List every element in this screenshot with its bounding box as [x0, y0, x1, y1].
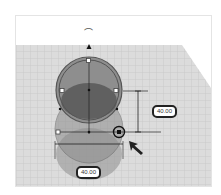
resize-handle-right[interactable]	[114, 89, 118, 93]
height-dimension-label[interactable]: 40.00	[152, 105, 177, 118]
resize-handle-left[interactable]	[60, 89, 64, 93]
workplane-viewport[interactable]: ⌒ 40.00 40.00	[15, 15, 212, 187]
workplane-canvas[interactable]	[16, 16, 211, 186]
resize-handle-top[interactable]	[87, 59, 91, 63]
center-point	[88, 89, 91, 92]
width-dimension-label[interactable]: 40.00	[76, 166, 101, 179]
resize-handle-bottom-left[interactable]	[56, 130, 60, 134]
rotate-arc-icon[interactable]: ⌒	[84, 29, 93, 38]
